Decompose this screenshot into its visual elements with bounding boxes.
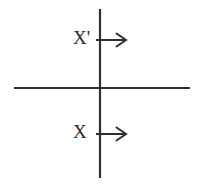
diagram-canvas <box>0 0 199 187</box>
lower-vector-label: X <box>73 122 87 141</box>
upper-vector-label: X' <box>73 28 90 47</box>
axes-diagram: X' X <box>0 0 199 187</box>
